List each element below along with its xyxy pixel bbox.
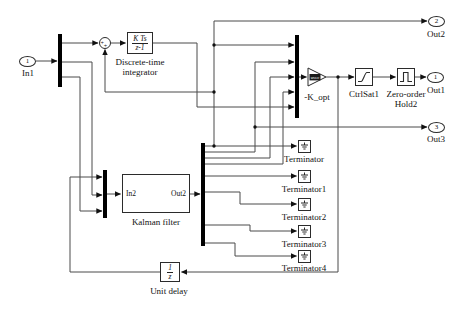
wire-demux1-to-kalmanmux-in2 [62,62,102,195]
unit-delay-icon: 1 z [167,264,174,281]
outport-out2[interactable]: 2 [428,16,445,27]
kalman-mux-bar[interactable] [103,170,107,218]
simulink-diagram-canvas: + + uvec 1 In1 2 Out2 1 Out1 3 Out3 K Ts… [0,0,464,310]
terminator-block[interactable] [298,140,311,153]
integrator-icon-denominator: z-1 [135,44,144,52]
outport-out3[interactable]: 3 [428,122,445,133]
demux2-bar[interactable] [201,143,205,246]
unit-delay-icon-denominator: z [169,273,172,281]
outport-out1-number: 1 [434,74,438,81]
inport-in1-number: 1 [26,58,30,65]
inport-in1-label: In1 [9,68,47,78]
zero-order-hold-block[interactable] [397,68,415,86]
demux1-bar[interactable] [58,34,62,87]
terminator2-block[interactable] [298,198,311,211]
outport-out2-number: 2 [435,18,439,25]
terminator-label: Terminator [275,154,333,164]
gain-icon-text: uvec [311,75,320,80]
terminator-icon [299,251,310,262]
kalman-port-out2: Out2 [171,189,186,198]
discrete-time-integrator-label: Discrete-time integrator [104,57,176,77]
terminator3-block[interactable] [298,225,311,238]
kalman-port-in2: In2 [126,189,136,198]
outport-out3-number: 3 [435,124,439,131]
wire-demux1-to-kalmanmux-in3 [62,77,102,211]
terminator-icon [299,226,310,237]
outport-out2-label: Out2 [419,29,453,39]
outport-out1[interactable]: 1 [427,72,444,83]
terminator2-label: Terminator2 [275,212,333,222]
terminator4-block[interactable] [298,250,311,263]
wire-demux2-to-terminator3 [205,225,297,231]
gain-block[interactable]: uvec [308,68,326,86]
terminator1-block[interactable] [298,170,311,183]
kalman-filter-block[interactable]: In2 Out2 [122,174,190,213]
saturation-icon [356,69,372,85]
inport-in1[interactable]: 1 [19,56,36,67]
saturation-block[interactable] [355,68,373,86]
gain-mux-bar[interactable] [295,35,299,118]
terminator-icon [299,141,310,152]
discrete-time-integrator-block[interactable]: K Ts z-1 [127,32,153,54]
terminator3-label: Terminator3 [275,239,333,249]
integrator-icon: K Ts z-1 [132,35,148,52]
wire-layer: + + uvec [0,0,464,310]
zero-order-hold-label: Zero-order Hold2 [380,89,432,109]
zero-order-hold-icon [398,69,414,85]
terminator-icon [299,171,310,182]
unit-delay-label: Unit delay [137,286,201,296]
kalman-filter-label: Kalman filter [120,217,192,227]
terminator-icon [299,199,310,210]
outport-out3-label: Out3 [419,134,453,144]
unit-delay-block[interactable]: 1 z [160,262,180,282]
terminator4-label: Terminator4 [275,263,333,273]
sum-sign-bottom: + [104,43,108,49]
terminator1-label: Terminator1 [275,184,333,194]
gain-label: -K_opt [294,92,340,102]
sum-block[interactable]: + + [100,38,111,50]
